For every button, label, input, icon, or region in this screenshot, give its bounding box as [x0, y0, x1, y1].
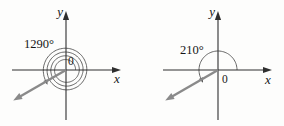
y-axis-label: y — [55, 4, 63, 19]
angle-value-label: 210° — [180, 43, 204, 57]
angles-standard-position-figure: y x 0 1290° y x 0 210° — [0, 0, 284, 126]
origin-label: 0 — [68, 55, 74, 67]
angle-diagram-left: y x 0 1290° — [0, 0, 142, 126]
x-axis-label: x — [113, 71, 120, 86]
terminal-ray-arrowhead — [165, 93, 174, 100]
y-axis-arrowhead — [215, 11, 221, 20]
terminal-ray — [19, 70, 66, 97]
angle-curve — [43, 48, 87, 90]
terminal-ray-arrowhead — [13, 93, 22, 100]
angle-value-label: 1290° — [24, 37, 54, 51]
angle-diagram-right: y x 0 210° — [142, 0, 284, 126]
x-axis-label: x — [264, 72, 271, 87]
origin-label: 0 — [222, 73, 228, 85]
terminal-ray — [171, 70, 218, 97]
y-axis-label: y — [207, 4, 215, 19]
y-axis-arrowhead — [63, 11, 69, 20]
